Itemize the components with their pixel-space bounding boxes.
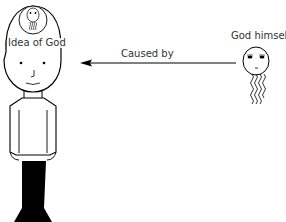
god-right-eye xyxy=(260,55,265,58)
person-right-eye xyxy=(43,62,46,65)
caused-by-arrow xyxy=(80,60,236,67)
god-figure xyxy=(243,47,269,104)
idea-of-god-bubble xyxy=(19,6,47,34)
god-beard xyxy=(251,74,266,104)
idea-of-god-label: Idea of God xyxy=(8,38,66,48)
god-head xyxy=(243,47,269,75)
person-torso xyxy=(10,98,56,155)
small-god-face xyxy=(27,8,39,22)
god-himself-label: God himself xyxy=(231,31,286,41)
god-left-eye xyxy=(248,55,253,58)
caused-by-label: Caused by xyxy=(121,49,174,59)
person-left-eye xyxy=(20,62,23,65)
person-legs xyxy=(14,161,52,222)
